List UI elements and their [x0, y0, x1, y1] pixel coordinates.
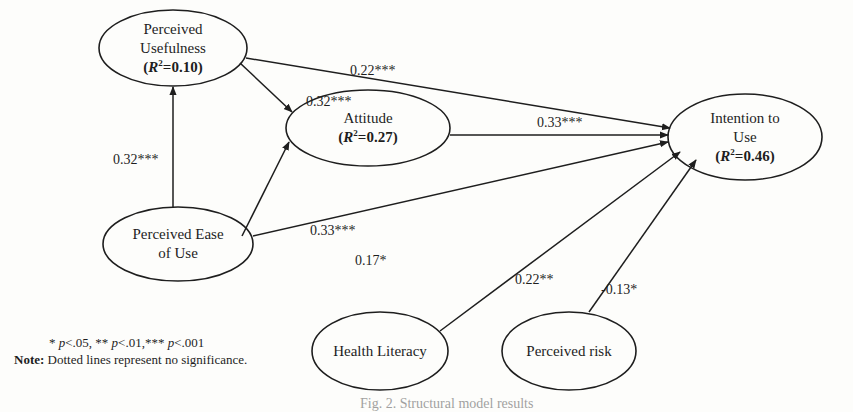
- r-squared-value: (R2=0.46): [710, 147, 780, 166]
- arrow-peou-to-attitude: [242, 142, 289, 236]
- note-label: Note:: [14, 352, 44, 367]
- node-perceived-ease-of-use: Perceived Ease of Use: [132, 225, 223, 263]
- node-perceived-usefulness: Perceived Usefulness (R2=0.10): [140, 20, 206, 77]
- note-text: Dotted lines represent no significance.: [44, 352, 247, 367]
- arrow-peou-to-itu: [253, 142, 668, 236]
- coef-perceived-risk-to-itu: -0.13*: [601, 282, 637, 298]
- arrow-health-literacy-to-itu: [440, 152, 680, 331]
- coef-peou-to-itu: 0.17*: [355, 253, 387, 269]
- significance-legend: * p<.05, ** p<.01,*** p<.001: [49, 335, 204, 351]
- node-label-line: of Use: [132, 244, 223, 263]
- node-perceived-risk: Perceived risk: [526, 342, 611, 361]
- coef-peou-to-pu: 0.32***: [113, 152, 159, 168]
- node-label-line: Use: [710, 128, 780, 147]
- figure-caption: Fig. 2. Structural model results: [360, 396, 533, 412]
- node-label-line: Perceived risk: [526, 342, 611, 361]
- note-legend: Note: Dotted lines represent no signific…: [14, 352, 247, 368]
- coef-pu-to-attitude: 0.32***: [306, 94, 352, 110]
- node-label-line: Perceived Ease: [132, 225, 223, 244]
- node-intention-to-use: Intention to Use (R2=0.46): [710, 109, 780, 166]
- node-label-line: Intention to: [710, 109, 780, 128]
- node-label-line: Usefulness: [140, 39, 206, 58]
- node-label-line: Attitude: [338, 109, 397, 128]
- coef-pu-to-itu: 0.22***: [350, 63, 396, 79]
- arrow-pu-to-attitude: [240, 63, 292, 112]
- r-squared-value: (R2=0.27): [338, 128, 397, 147]
- r-squared-value: (R2=0.10): [140, 58, 206, 77]
- node-attitude: Attitude (R2=0.27): [338, 109, 397, 147]
- coef-peou-to-attitude: 0.33***: [310, 223, 356, 239]
- node-label-line: Perceived: [140, 20, 206, 39]
- coef-attitude-to-itu: 0.33***: [537, 115, 583, 131]
- node-health-literacy: Health Literacy: [333, 342, 427, 361]
- arrow-pu-to-itu: [246, 58, 670, 128]
- coef-health-literacy-to-itu: 0.22**: [515, 272, 554, 288]
- node-label-line: Health Literacy: [333, 342, 427, 361]
